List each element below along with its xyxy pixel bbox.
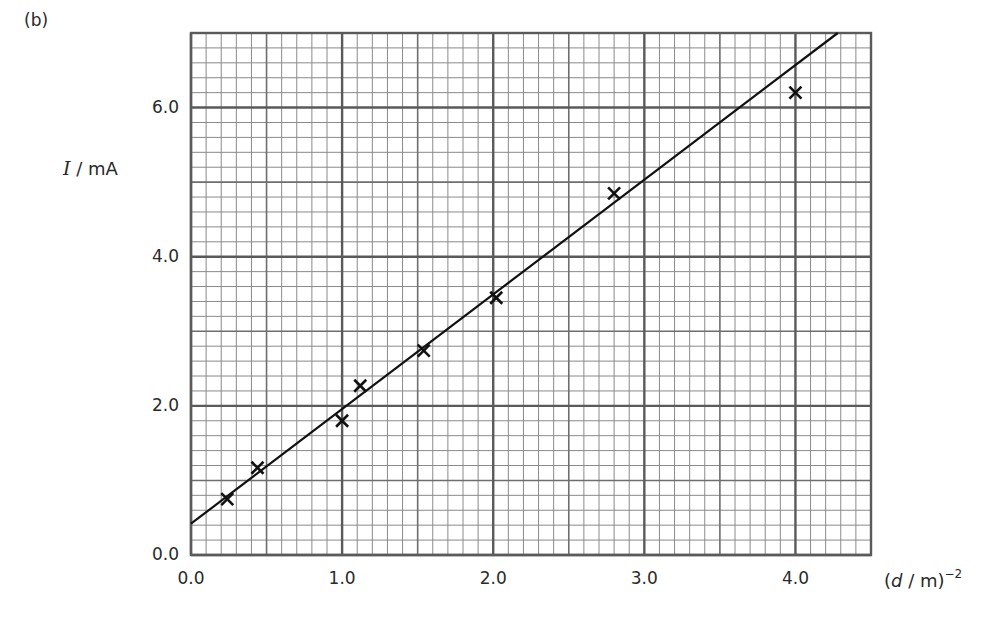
chart-plot-area [0, 0, 1007, 628]
x-tick-label: 1.0 [312, 568, 372, 588]
y-tick-label: 0.0 [119, 544, 179, 564]
x-axis-label: (d / m)−2 [884, 569, 962, 591]
graph-paper-grid [191, 33, 871, 555]
x-tick-label: 2.0 [463, 568, 523, 588]
x-axis-open-paren: ( [884, 570, 891, 591]
x-axis-unit: / m) [902, 570, 944, 591]
y-axis-symbol: I [63, 157, 71, 179]
y-axis-unit: / mA [71, 158, 118, 179]
x-tick-label: 0.0 [161, 568, 221, 588]
x-tick-label: 4.0 [765, 568, 825, 588]
y-axis-label: I / mA [63, 157, 118, 179]
y-tick-label: 4.0 [119, 246, 179, 266]
x-axis-exponent: −2 [945, 567, 963, 581]
y-tick-label: 2.0 [119, 395, 179, 415]
data-point-marker [354, 380, 366, 392]
data-points [221, 87, 801, 505]
y-tick-label: 6.0 [119, 97, 179, 117]
x-tick-label: 3.0 [614, 568, 674, 588]
x-axis-symbol: d [891, 570, 902, 591]
